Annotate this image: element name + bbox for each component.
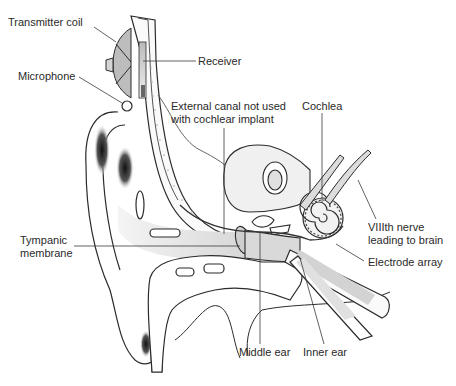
viiith-nerve (300, 150, 371, 210)
speech-processor (131, 16, 262, 250)
label-external-canal-line1: External canal not used (171, 100, 286, 113)
middle-ear-region (224, 145, 310, 262)
label-inner-ear: Inner ear (303, 346, 347, 359)
label-transmitter-coil: Transmitter coil (8, 16, 83, 29)
microphone-shape (122, 101, 132, 111)
mastoid-outline (175, 306, 240, 358)
label-external-canal-line2: with cochlear implant (171, 113, 274, 126)
label-viiith-nerve-line1: VIIIth nerve (368, 221, 424, 234)
label-microphone: Microphone (18, 70, 75, 83)
label-electrode-array: Electrode array (368, 256, 443, 269)
label-viiith-nerve-line2: leading to brain (368, 234, 443, 247)
transmitter-coil (106, 28, 131, 98)
label-middle-ear: Middle ear (239, 346, 290, 359)
pinna-shadow-upper (94, 124, 110, 176)
leader-electrode-array (336, 244, 364, 261)
pinna-shadow-mid (116, 146, 134, 190)
leader-transmitter-coil (94, 27, 116, 42)
label-cochlea: Cochlea (302, 100, 342, 113)
label-tympanic-line1: Tympanic (20, 234, 67, 247)
label-receiver: Receiver (198, 55, 241, 68)
leader-viiith-nerve (358, 180, 376, 219)
label-tympanic-line2: membrane (20, 247, 73, 260)
